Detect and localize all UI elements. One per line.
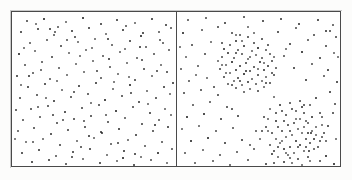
data-point: [299, 144, 301, 146]
data-point: [287, 154, 289, 156]
data-point: [231, 84, 233, 86]
data-point: [263, 116, 265, 118]
data-point: [323, 75, 325, 77]
data-point: [72, 151, 74, 153]
data-point: [130, 92, 132, 94]
data-point: [210, 41, 212, 43]
data-point: [243, 73, 245, 75]
data-point: [332, 112, 334, 114]
data-point: [267, 65, 269, 67]
data-point: [299, 118, 301, 120]
data-point: [265, 82, 267, 84]
data-point: [195, 74, 197, 76]
data-point: [273, 150, 275, 152]
data-point: [325, 155, 327, 157]
data-point: [273, 162, 275, 164]
data-point: [59, 144, 61, 146]
data-point: [30, 108, 32, 110]
data-point: [141, 123, 143, 125]
data-point: [303, 150, 305, 152]
data-point: [82, 17, 84, 19]
data-point: [317, 146, 319, 148]
data-point: [170, 114, 172, 116]
data-point: [76, 140, 78, 142]
data-point: [247, 36, 249, 38]
data-point: [187, 19, 189, 21]
data-point: [111, 44, 113, 46]
data-point: [46, 39, 48, 41]
data-point: [235, 34, 237, 36]
data-point: [198, 125, 200, 127]
data-point: [79, 55, 81, 57]
data-point: [301, 106, 303, 108]
data-point: [275, 112, 277, 114]
data-point: [249, 88, 251, 90]
data-point: [309, 142, 311, 144]
data-point: [149, 112, 151, 114]
data-point: [285, 114, 287, 116]
data-point: [289, 102, 291, 104]
data-point: [71, 156, 73, 158]
data-point: [60, 45, 62, 47]
data-point: [83, 71, 85, 73]
data-point: [231, 61, 233, 63]
data-point: [223, 76, 225, 78]
data-point: [327, 69, 329, 71]
data-point: [140, 156, 142, 158]
data-point: [113, 81, 115, 83]
data-point: [257, 68, 259, 70]
data-point: [299, 100, 301, 102]
data-point: [161, 141, 163, 143]
data-point: [241, 40, 243, 42]
left-panel: [12, 12, 176, 166]
data-point: [27, 86, 29, 88]
data-point: [19, 97, 21, 99]
data-point: [53, 100, 55, 102]
data-point: [237, 77, 239, 79]
data-point: [285, 136, 287, 138]
data-point: [280, 18, 282, 20]
data-point: [73, 118, 75, 120]
data-point: [335, 138, 337, 140]
data-point: [310, 132, 312, 134]
data-point: [169, 93, 171, 95]
data-point: [128, 76, 130, 78]
data-point: [225, 72, 227, 74]
data-point: [108, 58, 110, 60]
data-point: [307, 132, 309, 134]
data-point: [32, 72, 34, 74]
data-point: [213, 86, 215, 88]
data-point: [235, 52, 237, 54]
data-point: [90, 102, 92, 104]
data-point: [245, 62, 247, 64]
data-point: [298, 23, 300, 25]
data-point: [132, 106, 134, 108]
data-point: [307, 39, 309, 41]
data-point: [188, 80, 190, 82]
right-panel: [177, 12, 340, 166]
data-point: [325, 45, 327, 47]
data-point: [317, 19, 319, 21]
data-point: [249, 144, 251, 146]
data-point: [319, 57, 321, 59]
data-point: [293, 152, 295, 154]
data-point: [116, 19, 118, 21]
data-point: [325, 30, 327, 32]
data-point: [20, 31, 22, 33]
data-point: [127, 139, 129, 141]
data-point: [291, 108, 293, 110]
data-point: [265, 126, 267, 128]
data-point: [295, 140, 297, 142]
data-point: [289, 157, 291, 159]
data-point: [263, 86, 265, 88]
data-point: [75, 63, 77, 65]
data-point: [305, 79, 307, 81]
data-point: [65, 21, 67, 23]
data-point: [66, 39, 68, 41]
data-point: [144, 145, 146, 147]
data-point: [319, 160, 321, 162]
data-point: [295, 27, 297, 29]
data-point: [229, 44, 231, 46]
data-point: [273, 96, 275, 98]
figure-root: [0, 0, 352, 180]
